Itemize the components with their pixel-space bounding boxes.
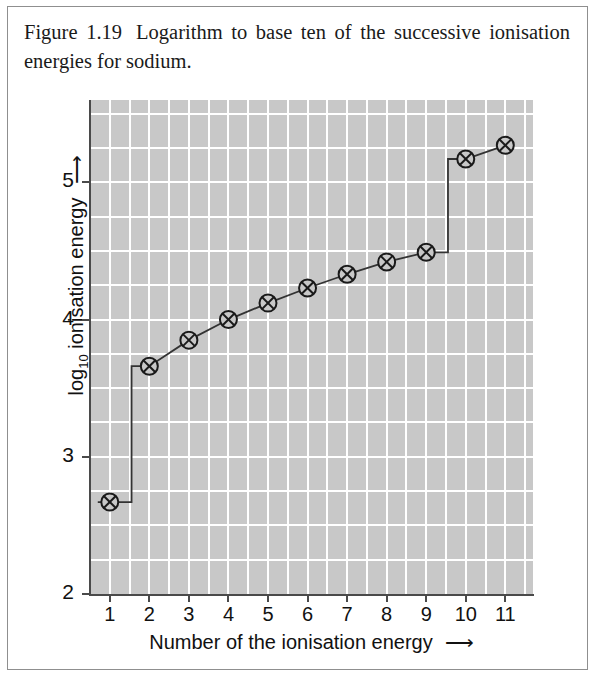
data-point-marker [418, 244, 435, 261]
data-point-marker [339, 266, 356, 283]
data-point-marker [299, 279, 316, 296]
data-point-marker [259, 295, 276, 312]
data-point-marker [141, 358, 158, 375]
series-group [98, 137, 514, 511]
data-point-marker [457, 151, 474, 168]
data-point-marker [378, 253, 395, 270]
data-point-marker [101, 494, 118, 511]
series-line [98, 145, 506, 502]
series-layer [0, 0, 595, 676]
data-point-marker [180, 332, 197, 349]
data-point-marker [220, 311, 237, 328]
data-point-marker [497, 137, 514, 154]
chart: log10 ionisation energy⟶ Number of the i… [0, 0, 595, 676]
figure-page: Figure 1.19Logarithm to base ten of the … [0, 0, 595, 676]
